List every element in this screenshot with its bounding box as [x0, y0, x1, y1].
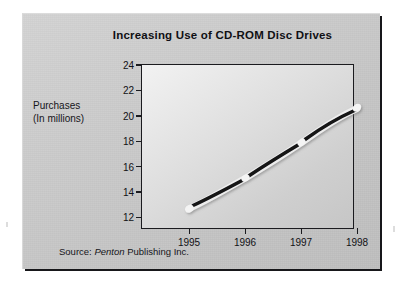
data-curve	[138, 61, 359, 234]
plot-area: 24 22 20 18 16 14	[141, 64, 354, 229]
y-tick-label: 20	[123, 110, 134, 121]
curve-group	[184, 102, 363, 214]
y-tick-label: 14	[123, 186, 134, 197]
chart-card: Increasing Use of CD-ROM Disc Drives Pur…	[22, 13, 380, 269]
source-note: Source: Penton Publishing Inc.	[59, 246, 189, 257]
source-publisher: Penton	[94, 246, 124, 257]
x-tick-label: 1996	[234, 237, 256, 248]
scan-speckle	[393, 226, 395, 232]
y-tick-label: 18	[123, 136, 134, 147]
curve-segment-1997-1998	[305, 110, 356, 140]
figure-container: Increasing Use of CD-ROM Disc Drives Pur…	[0, 0, 406, 299]
curve-segment-1995-1996	[193, 180, 243, 205]
y-tick-label: 16	[123, 161, 134, 172]
scan-speckle	[6, 222, 8, 227]
y-axis-title: Purchases (In millions)	[33, 100, 129, 125]
y-tick-label: 22	[123, 85, 134, 96]
y-axis-title-line1: Purchases	[33, 100, 80, 111]
y-axis-title-line2: (In millions)	[33, 113, 129, 126]
curve-segment-1996-1997	[249, 145, 298, 176]
x-tick-label: 1998	[346, 237, 368, 248]
source-suffix: Publishing Inc.	[127, 246, 189, 257]
chart-title: Increasing Use of CD-ROM Disc Drives	[23, 29, 380, 41]
y-tick-label: 12	[123, 212, 134, 223]
source-prefix: Source:	[59, 246, 92, 257]
x-tick-label: 1997	[290, 237, 312, 248]
y-tick-label: 24	[123, 60, 134, 71]
